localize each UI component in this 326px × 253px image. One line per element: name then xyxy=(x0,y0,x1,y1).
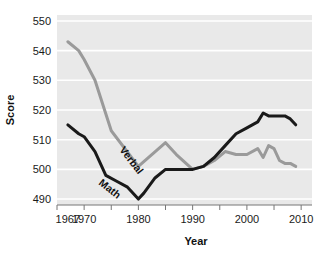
chart-canvas: 490500510520530540550 196719701980199020… xyxy=(0,0,326,253)
x-axis-title: Year xyxy=(184,235,208,247)
x-tick-label: 1970 xyxy=(72,213,96,225)
y-tick-label: 540 xyxy=(33,45,51,57)
x-tick-label: 2000 xyxy=(235,213,259,225)
y-tick-label: 500 xyxy=(33,163,51,175)
y-tick-label: 510 xyxy=(33,134,51,146)
x-tick-label: 2010 xyxy=(289,213,313,225)
y-tick-label: 550 xyxy=(33,15,51,27)
y-tick-label: 520 xyxy=(33,104,51,116)
y-tick-label: 490 xyxy=(33,193,51,205)
x-tick-label: 1990 xyxy=(180,213,204,225)
x-tick-label: 1980 xyxy=(126,213,150,225)
chart-figure: 490500510520530540550 196719701980199020… xyxy=(0,0,326,253)
y-tick-label: 530 xyxy=(33,74,51,86)
y-axis-title: Score xyxy=(4,95,16,126)
